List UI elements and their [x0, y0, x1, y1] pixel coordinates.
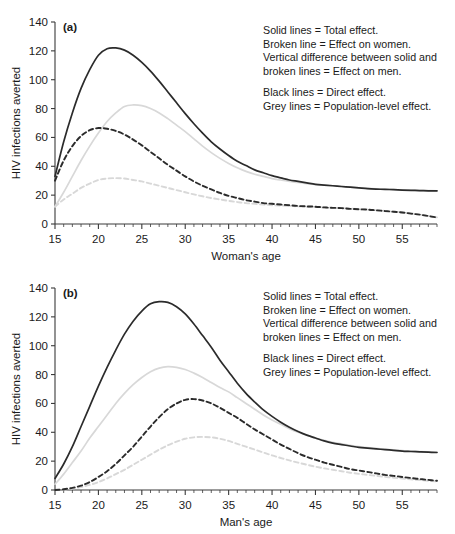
y-tick-label: 80	[35, 103, 48, 115]
y-tick-label: 60	[35, 131, 48, 143]
x-axis-title: Woman's age	[211, 250, 281, 262]
y-tick-label: 0	[42, 484, 48, 496]
x-tick-label: 25	[135, 499, 148, 511]
y-tick-label: 140	[29, 16, 48, 28]
x-tick-label: 30	[179, 233, 192, 245]
y-tick-label: 80	[35, 369, 48, 381]
x-tick-label: 40	[266, 233, 279, 245]
x-tick-label: 30	[179, 499, 192, 511]
legend-line: Broken line = Effect on women.	[263, 304, 411, 316]
y-tick-label: 60	[35, 397, 48, 409]
x-tick-label: 20	[92, 233, 105, 245]
x-tick-label: 55	[396, 233, 409, 245]
legend-line: Solid lines = Total effect.	[263, 290, 378, 302]
y-tick-label: 20	[35, 189, 48, 201]
legend-line: Solid lines = Total effect.	[263, 24, 378, 36]
y-tick-label: 20	[35, 455, 48, 467]
panel-b-plot: 020406080100120140152025303540455055Man'…	[10, 282, 437, 528]
x-tick-label: 50	[352, 499, 365, 511]
panel-tag: (a)	[63, 21, 77, 33]
curve-dashed-black	[55, 128, 437, 218]
legend-line: Grey lines = Population-level effect.	[263, 100, 431, 112]
y-tick-label: 40	[35, 160, 48, 172]
legend-line: Black lines = Direct effect.	[263, 352, 386, 364]
y-tick-label: 120	[29, 311, 48, 323]
y-tick-label: 100	[29, 340, 48, 352]
x-tick-label: 55	[396, 499, 409, 511]
legend-line: Black lines = Direct effect.	[263, 86, 386, 98]
x-tick-label: 45	[309, 499, 322, 511]
y-axis-title: HIV infections averted	[10, 333, 22, 446]
chart-panel-a: 020406080100120140152025303540455055Woma…	[0, 0, 455, 268]
x-tick-label: 20	[92, 499, 105, 511]
curve-dashed-grey	[55, 437, 437, 490]
x-tick-label: 45	[309, 233, 322, 245]
y-tick-label: 100	[29, 74, 48, 86]
figure-hiv-infections-averted: 020406080100120140152025303540455055Woma…	[0, 0, 455, 534]
x-tick-label: 35	[222, 499, 235, 511]
y-tick-label: 140	[29, 282, 48, 294]
panel-a-svg: 020406080100120140152025303540455055Woma…	[0, 0, 455, 268]
legend-line: Grey lines = Population-level effect.	[263, 366, 431, 378]
panel-tag: (b)	[63, 287, 78, 299]
legend-line: broken lines = Effect on men.	[263, 65, 402, 77]
x-tick-label: 50	[352, 233, 365, 245]
legend-line: Broken line = Effect on women.	[263, 38, 411, 50]
legend-line: Vertical difference between solid and	[263, 317, 437, 329]
chart-panel-b: 020406080100120140152025303540455055Man'…	[0, 266, 455, 534]
x-tick-label: 35	[222, 233, 235, 245]
legend-line: Vertical difference between solid and	[263, 51, 437, 63]
x-tick-label: 40	[266, 499, 279, 511]
curve-solid-grey	[55, 105, 437, 207]
x-tick-label: 25	[135, 233, 148, 245]
y-tick-label: 40	[35, 426, 48, 438]
x-tick-label: 15	[49, 233, 62, 245]
y-tick-label: 120	[29, 45, 48, 57]
caption-cutoff	[0, 522, 455, 534]
y-tick-label: 0	[42, 218, 48, 230]
x-tick-label: 15	[49, 499, 62, 511]
panel-a-plot: 020406080100120140152025303540455055Woma…	[10, 16, 437, 262]
panel-b-svg: 020406080100120140152025303540455055Man'…	[0, 266, 455, 534]
y-axis-title: HIV infections averted	[10, 67, 22, 180]
legend-line: broken lines = Effect on men.	[263, 331, 402, 343]
